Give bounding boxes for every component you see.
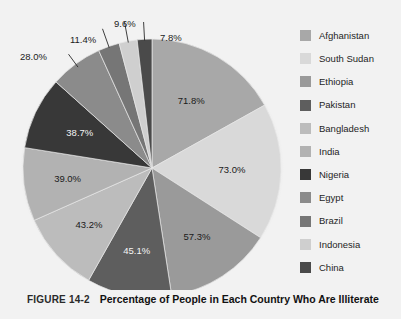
legend-item-label: Indonesia (319, 240, 360, 250)
legend-swatch-icon (300, 239, 311, 250)
legend-item[interactable]: India (300, 140, 400, 163)
legend-item[interactable]: Brazil (300, 210, 400, 233)
legend-swatch-icon (300, 123, 311, 134)
legend-item-label: Nigeria (319, 170, 349, 180)
figure-caption: FIGURE 14-2 Percentage of People in Each… (0, 293, 401, 305)
legend-item[interactable]: Nigeria (300, 163, 400, 186)
figure-area: 71.8%73.0%57.3%45.1%43.2%39.0%38.7% 28.0… (0, 0, 401, 287)
legend-swatch-icon (300, 216, 311, 227)
legend-item-label: Pakistan (319, 100, 355, 110)
legend-item-label: Bangladesh (319, 124, 369, 134)
pie-value-label: 71.8% (178, 95, 205, 106)
legend-item-label: India (319, 147, 340, 157)
callout-label-indonesia: 9.6% (114, 18, 136, 29)
legend-item[interactable]: Afghanistan (300, 24, 400, 47)
callout-label-egypt: 28.0% (20, 51, 47, 62)
legend-swatch-icon (300, 30, 311, 41)
legend-swatch-icon (300, 169, 311, 180)
pie-chart-svg: 71.8%73.0%57.3%45.1%43.2%39.0%38.7% (10, 22, 288, 290)
legend-item-label: China (319, 263, 344, 273)
callout-label-china: 7.8% (160, 32, 182, 43)
caption-title: Percentage of People in Each Country Who… (100, 293, 379, 305)
legend-swatch-icon (300, 76, 311, 87)
pie-chart: 71.8%73.0%57.3%45.1%43.2%39.0%38.7% 28.0… (10, 22, 288, 290)
pie-value-label: 38.7% (66, 127, 93, 138)
legend-swatch-icon (300, 100, 311, 111)
legend-item-label: Brazil (319, 216, 343, 226)
pie-value-label: 39.0% (54, 173, 81, 184)
callout-label-brazil: 11.4% (70, 34, 96, 45)
legend: AfghanistanSouth SudanEthiopiaPakistanBa… (300, 24, 400, 279)
legend-item-label: Ethiopia (319, 77, 353, 87)
legend-item[interactable]: South Sudan (300, 47, 400, 70)
legend-swatch-icon (300, 192, 311, 203)
legend-item-label: Egypt (319, 193, 343, 203)
caption-figure-number: FIGURE 14-2 (27, 294, 90, 305)
pie-leader-line (103, 29, 110, 48)
legend-item[interactable]: Pakistan (300, 94, 400, 117)
legend-item[interactable]: Egypt (300, 186, 400, 209)
legend-item-label: Afghanistan (319, 31, 369, 41)
legend-item[interactable]: Bangladesh (300, 117, 400, 140)
legend-swatch-icon (300, 53, 311, 64)
pie-value-label: 73.0% (218, 164, 245, 175)
pie-value-label: 57.3% (184, 231, 211, 242)
legend-item[interactable]: Indonesia (300, 233, 400, 256)
legend-item-label: South Sudan (319, 54, 374, 64)
legend-item[interactable]: China (300, 256, 400, 279)
legend-swatch-icon (300, 262, 311, 273)
pie-value-label: 45.1% (123, 245, 150, 256)
pie-value-label: 43.2% (76, 219, 103, 230)
pie-leader-line (144, 22, 145, 41)
legend-swatch-icon (300, 146, 311, 157)
legend-item[interactable]: Ethiopia (300, 70, 400, 93)
